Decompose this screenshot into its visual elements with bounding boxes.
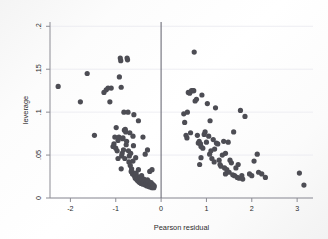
plot-frame (50, 22, 313, 198)
svg-text:1: 1 (204, 204, 208, 213)
svg-text:0: 0 (34, 196, 43, 200)
x-axis-ticks: -2-10123 (67, 198, 299, 213)
scatter-plot: -2-10123 0.05.1.15.2 Pearson residual le… (0, 0, 328, 239)
plot-svg: -2-10123 0.05.1.15.2 Pearson residual le… (0, 0, 328, 239)
svg-text:0: 0 (159, 204, 163, 213)
data-points (56, 49, 307, 190)
gridlines (50, 26, 313, 198)
svg-text:.1: .1 (34, 109, 43, 115)
svg-text:2: 2 (250, 204, 254, 213)
svg-text:.2: .2 (34, 23, 43, 29)
y-axis-title: leverage (21, 96, 30, 124)
svg-text:-2: -2 (67, 204, 73, 213)
svg-text:-1: -1 (113, 204, 119, 213)
svg-text:.05: .05 (34, 150, 43, 160)
x-axis-title: Pearson residual (154, 223, 210, 232)
figure-container: -2-10123 0.05.1.15.2 Pearson residual le… (0, 0, 328, 239)
svg-text:.15: .15 (34, 64, 43, 74)
y-axis-ticks: 0.05.1.15.2 (34, 23, 50, 200)
svg-text:3: 3 (295, 204, 299, 213)
